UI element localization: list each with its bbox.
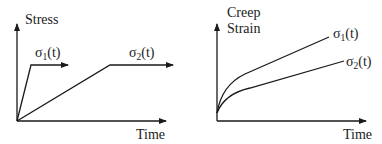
creep-axis-label-line2: Strain [227,22,260,36]
sigma1-creep-label: σ1(t) [333,27,359,41]
subscript: 2 [354,61,359,71]
sigma2-creep-curve [217,61,344,113]
strain-time-axis-label: Time [343,128,372,142]
argument: (t) [358,54,371,69]
sigma1-creep-curve [217,37,329,113]
sigma2-creep-label: σ2(t) [346,55,372,69]
sigma-symbol: σ [346,54,354,69]
creep-axis-label-line1: Creep [227,6,260,20]
subscript: 1 [341,33,346,43]
creep-loading-diagram: Stress σ1(t) σ2(t) Time Creep Strain σ1(… [0,0,382,144]
argument: (t) [345,26,358,41]
creep-strain-plot [0,0,382,144]
sigma-symbol: σ [333,26,341,41]
